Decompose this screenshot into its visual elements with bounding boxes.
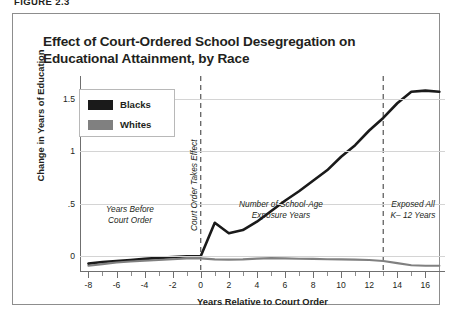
y-axis-tick-label: 1 <box>70 146 75 156</box>
x-axis-major-tick <box>201 272 202 278</box>
x-axis-minor-tick <box>131 272 132 276</box>
x-axis-minor-tick <box>271 272 272 276</box>
x-axis-minor-tick <box>159 272 160 276</box>
x-axis-tick-label: -4 <box>141 280 149 290</box>
x-axis-major-tick <box>173 272 174 278</box>
x-axis-major-tick <box>229 272 230 278</box>
y-axis-tick-label: .5 <box>68 199 75 209</box>
gridline <box>80 256 445 257</box>
legend-swatch-whites <box>88 120 113 130</box>
x-axis-minor-tick <box>187 272 188 276</box>
x-axis-major-tick <box>117 272 118 278</box>
x-axis-tick-label: 4 <box>254 280 259 290</box>
x-axis-minor-tick <box>243 272 244 276</box>
annotation-school-age-exposure-years: Number of School-Age Exposure Years <box>211 199 351 221</box>
x-axis-major-tick <box>369 272 370 278</box>
y-axis-tick-labels: 1.51.50 <box>49 76 75 272</box>
x-axis-tick-label: 16 <box>421 280 431 290</box>
x-axis-minor-tick <box>411 272 412 276</box>
x-axis-minor-tick <box>383 272 384 276</box>
legend-swatch-blacks <box>88 100 113 110</box>
x-axis-major-tick <box>145 272 146 278</box>
x-axis-major-tick <box>313 272 314 278</box>
x-axis-minor-tick <box>299 272 300 276</box>
x-axis-title: Years Relative to Court Order <box>80 296 445 307</box>
x-axis-tick-labels: -8-6-4-20246810121416 <box>80 280 445 292</box>
x-axis-tick-label: 2 <box>226 280 231 290</box>
x-axis-minor-tick <box>439 272 440 276</box>
chart-legend: BlacksWhites <box>79 89 175 137</box>
x-axis-minor-tick <box>355 272 356 276</box>
annotation-years-before-court-order: Years Before Court Order <box>75 204 185 226</box>
x-axis-tick-label: 10 <box>336 280 346 290</box>
x-axis-ticks <box>80 272 445 280</box>
chart-title: Effect of Court-Ordered School Desegrega… <box>43 33 413 68</box>
annotation-court-order-takes-effect: Court Order Takes Effect <box>189 140 199 231</box>
x-axis-tick-label: 0 <box>198 280 203 290</box>
x-axis-major-tick <box>425 272 426 278</box>
gridline <box>80 151 445 152</box>
x-axis-major-tick <box>285 272 286 278</box>
annotation-exposed-all-k12-years: Exposed All K– 12 Years <box>368 199 452 221</box>
x-axis-tick-label: 8 <box>311 280 316 290</box>
y-axis-tick-label: 1.5 <box>63 94 75 104</box>
x-axis-tick-label: 14 <box>392 280 402 290</box>
y-axis-title: Change in Years of Education <box>35 26 46 206</box>
legend-item-whites: Whites <box>88 119 151 130</box>
x-axis-major-tick <box>341 272 342 278</box>
figure-frame: Effect of Court-Ordered School Desegrega… <box>12 13 440 305</box>
x-axis-tick-label: -8 <box>85 280 93 290</box>
x-axis-tick-label: 6 <box>283 280 288 290</box>
legend-item-blacks: Blacks <box>88 99 151 110</box>
x-axis-minor-tick <box>215 272 216 276</box>
figure-number-label: FIGURE 2.3 <box>14 0 70 7</box>
legend-label: Blacks <box>120 99 151 110</box>
x-axis-minor-tick <box>327 272 328 276</box>
x-axis-tick-label: 12 <box>364 280 374 290</box>
x-axis-tick-label: -2 <box>169 280 177 290</box>
legend-label: Whites <box>120 119 151 130</box>
x-axis-major-tick <box>88 272 89 278</box>
x-axis-tick-label: -6 <box>113 280 121 290</box>
x-axis-major-tick <box>397 272 398 278</box>
y-axis-tick-label: 0 <box>70 251 75 261</box>
x-axis-minor-tick <box>102 272 103 276</box>
x-axis-major-tick <box>257 272 258 278</box>
